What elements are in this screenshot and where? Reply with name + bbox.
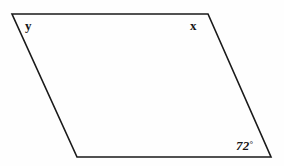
angle-label-x: x [190,19,197,32]
parallelogram-shape [12,14,271,157]
geometry-figure-canvas: y x 72° [0,0,284,166]
degree-symbol-icon: ° [249,139,253,149]
angle-label-72-degrees: 72° [236,139,253,152]
angle-value-72: 72 [236,138,249,153]
angle-label-y: y [25,19,32,32]
